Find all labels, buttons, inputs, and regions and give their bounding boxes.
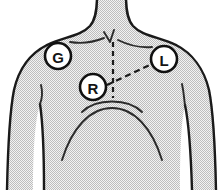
electrode-l[interactable]: L [151, 46, 177, 72]
electrode-g-label: G [52, 49, 64, 66]
torso-silhouette [7, 0, 217, 190]
electrode-l-label: L [159, 52, 168, 69]
torso-body-shape [7, 0, 217, 190]
electrode-placement-diagram: G L R [0, 0, 224, 190]
electrode-g[interactable]: G [45, 43, 71, 69]
torso-illustration: G L R [0, 0, 224, 190]
electrode-r[interactable]: R [80, 74, 106, 100]
electrode-r-label: R [88, 80, 99, 97]
